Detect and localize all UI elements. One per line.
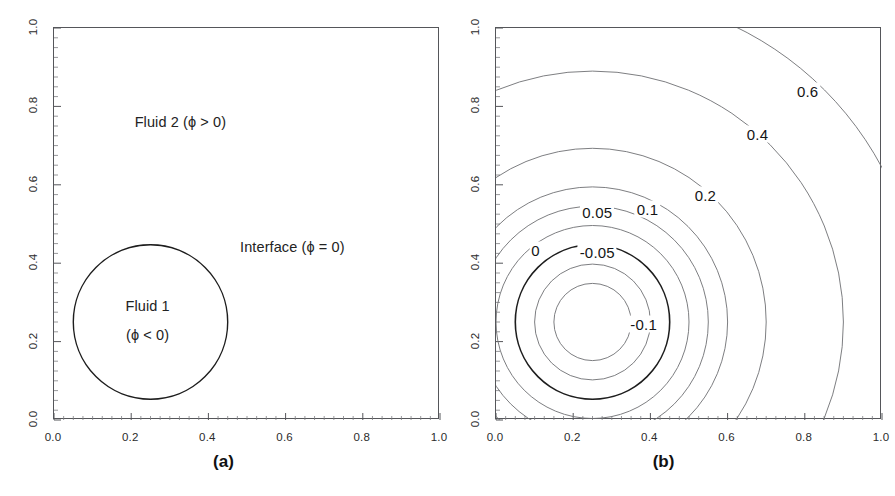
y-tick-label: 0.4 (469, 254, 481, 271)
x-tick-label: 1.0 (431, 431, 448, 443)
fluid-1-label-line1: Fluid 1 (125, 298, 169, 314)
y-tick-label: 0.8 (27, 97, 39, 114)
contour-line (477, 206, 709, 438)
panel-b-plot-area (495, 27, 881, 419)
panel-b-contour-svg (496, 28, 882, 420)
x-tick-label: 0.0 (487, 431, 504, 443)
y-tick-label: 0.2 (27, 332, 39, 349)
fluid-2-label: Fluid 2 (ϕ > 0) (135, 114, 226, 130)
x-tick-label: 0.2 (122, 431, 139, 443)
panel-a-caption: (a) (0, 452, 447, 472)
contour-label: 0 (529, 241, 542, 258)
y-tick-label: 1.0 (27, 19, 39, 36)
x-tick-label: 0.4 (199, 431, 216, 443)
panel-a-plot-area (53, 27, 439, 419)
panel-a-plot-svg (54, 28, 440, 420)
contour-label: 0.6 (795, 82, 820, 99)
x-tick-label: 0.6 (276, 431, 293, 443)
y-tick-label: 1.0 (469, 19, 481, 36)
contour-label: -0.05 (578, 244, 617, 261)
contour-line (554, 283, 631, 360)
x-tick-label: 0.8 (796, 431, 813, 443)
y-tick-label: 0.4 (27, 254, 39, 271)
panel-a: 0.00.00.20.20.40.40.60.60.80.81.01.0 Flu… (0, 0, 447, 496)
x-tick-label: 1.0 (873, 431, 890, 443)
contour-label: -0.1 (628, 315, 659, 332)
interface-circle (73, 245, 227, 399)
contour-label: 0.4 (745, 125, 770, 142)
contour-label: 0.1 (635, 201, 660, 218)
panel-b: 0.00.00.20.20.40.40.60.60.80.81.01.0 -0.… (448, 0, 895, 496)
x-tick-label: 0.2 (564, 431, 581, 443)
x-tick-label: 0.4 (641, 431, 658, 443)
panel-b-caption: (b) (440, 452, 887, 472)
contour-label: 0.05 (580, 204, 614, 221)
x-tick-label: 0.6 (718, 431, 735, 443)
y-tick-label: 0.0 (27, 411, 39, 428)
contour-label: 0.2 (693, 186, 718, 203)
y-tick-label: 0.8 (469, 97, 481, 114)
y-tick-label: 0.0 (469, 411, 481, 428)
y-tick-label: 0.6 (27, 176, 39, 193)
x-tick-label: 0.0 (45, 431, 62, 443)
y-tick-label: 0.2 (469, 332, 481, 349)
interface-label: Interface (ϕ = 0) (240, 239, 345, 255)
figure-level-set-illustration: 0.00.00.20.20.40.40.60.60.80.81.01.0 Flu… (0, 0, 895, 496)
fluid-1-label-line2: (ϕ < 0) (126, 327, 169, 343)
y-tick-label: 0.6 (469, 176, 481, 193)
x-tick-label: 0.8 (354, 431, 371, 443)
